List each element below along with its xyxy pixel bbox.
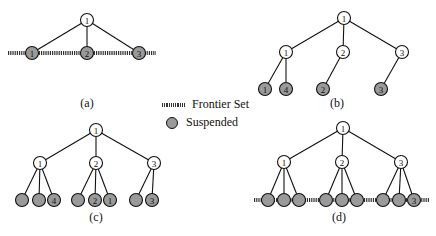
legend-suspended-label: Suspended bbox=[186, 115, 238, 130]
tree-leaf-node: 3 bbox=[375, 83, 388, 96]
legend-frontier: Frontier Set bbox=[162, 97, 249, 112]
tree-root-node: 1 bbox=[338, 12, 351, 25]
tree-level1-node: 2 bbox=[336, 156, 349, 169]
tree-level1-node: 1 bbox=[26, 47, 39, 60]
tree-edge bbox=[286, 18, 344, 52]
tree-edge bbox=[40, 130, 96, 163]
tree-level1-node: 2 bbox=[337, 46, 350, 59]
tree-leaf-node bbox=[278, 194, 291, 207]
svg-text:1: 1 bbox=[30, 49, 35, 59]
legend-suspended: Suspended bbox=[162, 115, 238, 130]
tree-leaf-node: 4 bbox=[280, 83, 293, 96]
tree-level1-node: 3 bbox=[148, 157, 161, 170]
tree-level1-node: 2 bbox=[90, 157, 103, 170]
tree-root-node: 1 bbox=[337, 122, 350, 135]
svg-text:2: 2 bbox=[321, 85, 326, 95]
svg-text:3: 3 bbox=[137, 49, 142, 59]
svg-text:3: 3 bbox=[399, 158, 404, 168]
tree-leaf-node bbox=[33, 194, 46, 207]
tree-root-node: 1 bbox=[81, 14, 94, 27]
svg-text:3: 3 bbox=[400, 48, 405, 58]
tree-edge bbox=[343, 128, 401, 162]
svg-text:1: 1 bbox=[38, 159, 43, 169]
tree-leaf-node: 4 bbox=[48, 194, 61, 207]
tree-leaf-node bbox=[262, 194, 275, 207]
caption-b: (b) bbox=[330, 96, 344, 111]
svg-text:1: 1 bbox=[284, 48, 289, 58]
tree-leaf-node bbox=[393, 194, 406, 207]
svg-text:4: 4 bbox=[284, 85, 289, 95]
tree-edge bbox=[96, 130, 154, 163]
svg-text:1: 1 bbox=[108, 196, 113, 206]
svg-text:1: 1 bbox=[341, 124, 346, 134]
tree-leaf-node: 2 bbox=[317, 83, 330, 96]
tree-leaf-node bbox=[336, 194, 349, 207]
tree-leaf-node bbox=[72, 194, 85, 207]
tree-leaf-node: 1 bbox=[104, 194, 117, 207]
svg-text:1: 1 bbox=[94, 126, 99, 136]
svg-text:1: 1 bbox=[342, 14, 347, 24]
tree-level1-node: 1 bbox=[278, 156, 291, 169]
svg-text:2: 2 bbox=[93, 196, 98, 206]
tree-leaf-node bbox=[320, 194, 333, 207]
tree-leaf-node: 3 bbox=[408, 194, 421, 207]
svg-text:2: 2 bbox=[340, 158, 345, 168]
tree-edge bbox=[87, 20, 139, 53]
svg-text:2: 2 bbox=[85, 49, 90, 59]
tree-leaf-node: 1 bbox=[259, 83, 272, 96]
tree-leaf-node bbox=[293, 194, 306, 207]
svg-text:3: 3 bbox=[412, 196, 417, 206]
svg-text:2: 2 bbox=[341, 48, 346, 58]
tree-leaf-node bbox=[377, 194, 390, 207]
caption-d: (d) bbox=[332, 210, 346, 225]
tree-level1-node: 2 bbox=[81, 47, 94, 60]
tree-edge bbox=[284, 128, 343, 162]
tree-leaf-node bbox=[16, 194, 29, 207]
svg-text:1: 1 bbox=[282, 158, 287, 168]
tree-level1-node: 3 bbox=[396, 46, 409, 59]
svg-text:3: 3 bbox=[152, 159, 157, 169]
svg-text:1: 1 bbox=[263, 85, 268, 95]
legend-frontier-label: Frontier Set bbox=[192, 97, 249, 112]
caption-a: (a) bbox=[80, 96, 93, 111]
tree-level1-node: 1 bbox=[280, 46, 293, 59]
caption-c: (c) bbox=[89, 210, 102, 225]
tree-level1-node: 3 bbox=[395, 156, 408, 169]
tree-leaf-node: 3 bbox=[146, 194, 159, 207]
tree-leaf-node: 2 bbox=[89, 194, 102, 207]
tree-leaf-node bbox=[351, 194, 364, 207]
tree-edge bbox=[32, 20, 87, 53]
tree-level1-node: 3 bbox=[133, 47, 146, 60]
suspended-node-icon bbox=[166, 117, 178, 129]
tree-root-node: 1 bbox=[90, 124, 103, 137]
svg-text:3: 3 bbox=[379, 85, 384, 95]
frontier-line-icon bbox=[162, 103, 186, 107]
tree-leaf-node bbox=[130, 194, 143, 207]
tree-edge bbox=[344, 18, 402, 52]
svg-text:1: 1 bbox=[85, 16, 90, 26]
svg-text:4: 4 bbox=[52, 196, 57, 206]
svg-text:3: 3 bbox=[150, 196, 155, 206]
tree-level1-node: 1 bbox=[34, 157, 47, 170]
svg-text:2: 2 bbox=[94, 159, 99, 169]
